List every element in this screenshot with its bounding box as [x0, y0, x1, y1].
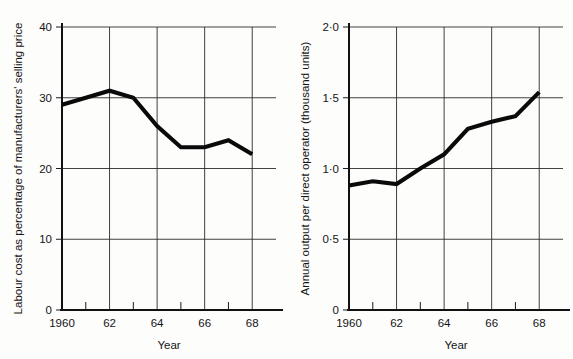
y-tick-label: 1·5 [322, 92, 339, 104]
x-tick-label: 66 [485, 317, 498, 329]
y-tick-label: 0 [333, 304, 339, 316]
x-tick-label: 64 [151, 317, 164, 329]
annual-output-line-chart: 00·51·01·52·0196062646668YearAnnual outp… [287, 0, 573, 359]
figure-container: 010203040196062646668YearLabour cost as … [0, 0, 573, 359]
y-axis-title: Labour cost as percentage of manufacture… [12, 23, 24, 315]
labour-cost-line-chart: 010203040196062646668YearLabour cost as … [0, 0, 286, 359]
y-tick-label: 20 [39, 163, 52, 175]
chart-panel-labour-cost: 010203040196062646668YearLabour cost as … [0, 0, 286, 359]
x-tick-label: 62 [103, 317, 116, 329]
x-tick-label: 68 [246, 317, 259, 329]
x-tick-label: 64 [438, 317, 451, 329]
y-tick-label: 30 [39, 92, 52, 104]
y-tick-label: 40 [39, 21, 52, 33]
x-tick-label: 1960 [336, 317, 362, 329]
chart-panel-annual-output: 00·51·01·52·0196062646668YearAnnual outp… [287, 0, 573, 359]
y-tick-label: 2·0 [322, 21, 339, 33]
x-tick-label: 66 [198, 317, 211, 329]
x-tick-label: 1960 [49, 317, 75, 329]
x-axis-title: Year [157, 339, 180, 351]
y-tick-label: 10 [39, 233, 52, 245]
y-tick-label: 0 [46, 304, 52, 316]
y-tick-label: 0·5 [322, 233, 339, 245]
y-tick-label: 1·0 [322, 163, 339, 175]
x-axis-title: Year [444, 339, 467, 351]
x-tick-label: 62 [390, 317, 403, 329]
x-tick-label: 68 [533, 317, 546, 329]
y-axis-title: Annual output per direct operator (thous… [299, 41, 311, 295]
